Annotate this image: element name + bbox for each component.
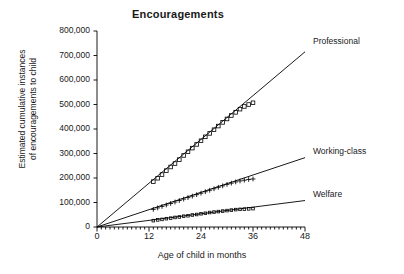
data-point [239,208,242,211]
data-point [169,217,172,220]
data-point [238,179,243,184]
series-markers-professional [152,101,255,183]
data-point [247,208,250,211]
data-point [251,177,256,182]
data-point [161,218,164,221]
series-label-welfare: Welfare [313,189,342,199]
data-point [246,177,251,182]
data-point [252,207,255,210]
data-point [251,101,255,105]
data-point [243,105,247,109]
data-point [243,208,246,211]
data-point [152,219,155,222]
chart-container: Encouragements Estimated cumulative inst… [0,0,404,274]
series-markers-working-class [151,177,255,212]
data-point [156,219,159,222]
data-point [247,103,251,107]
series-markers-welfare [152,207,254,222]
trendline-welfare [97,201,305,227]
trendline-professional [97,52,305,227]
data-point [165,217,168,220]
series-label-working-class: Working-class [313,146,366,156]
series-label-professional: Professional [313,36,360,46]
